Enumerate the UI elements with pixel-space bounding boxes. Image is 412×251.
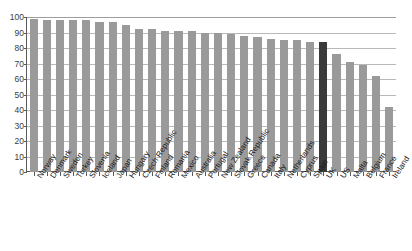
y-axis-tick-label: 0: [0, 168, 24, 177]
y-axis-tick-label: 70: [0, 59, 24, 68]
bar: [82, 20, 90, 172]
bar-slot: [40, 17, 53, 172]
x-label-slot: Czech Republic: [132, 174, 145, 251]
bar: [109, 22, 117, 172]
bar-slot: [106, 17, 119, 172]
x-label-slot: Cyprus: [290, 174, 303, 251]
x-axis-labels: NorwayDenmarkSwedenTurkeySloveniaIceland…: [27, 174, 396, 251]
bar-slot: [277, 17, 290, 172]
bar: [95, 22, 103, 172]
y-axis-tick-label: 20: [0, 137, 24, 146]
bar: [43, 20, 51, 172]
y-axis-tick-label: 100: [0, 13, 24, 22]
x-label-slot: Italy: [264, 174, 277, 251]
x-label-slot: New Zealand: [211, 174, 224, 251]
x-label-slot: Slovak Republic: [225, 174, 238, 251]
x-label-slot: France: [369, 174, 382, 251]
y-axis-tick-label: 60: [0, 75, 24, 84]
bar-slot: [383, 17, 396, 172]
x-label-slot: Hungary: [119, 174, 132, 251]
bar: [122, 25, 130, 172]
bar-slot: [356, 17, 369, 172]
bar-slot: [330, 17, 343, 172]
x-label-slot: Mexico: [172, 174, 185, 251]
bar: [280, 40, 288, 172]
bar-slot: [343, 17, 356, 172]
bar: [56, 20, 64, 172]
y-axis-tick-label: 90: [0, 28, 24, 37]
y-axis: 1009080706050403020100: [0, 17, 24, 172]
y-axis-tick-mark: [24, 172, 27, 173]
x-label-slot: Australia: [185, 174, 198, 251]
x-label-slot: Malta: [343, 174, 356, 251]
x-label-slot: Japan: [106, 174, 119, 251]
bar: [30, 19, 38, 172]
x-label-slot: Norway: [27, 174, 40, 251]
x-label-slot: Denmark: [40, 174, 53, 251]
x-label-slot: Belgium: [356, 174, 369, 251]
bar: [319, 42, 327, 172]
x-label-slot: Sweden: [53, 174, 66, 251]
x-label-slot: Portugal: [198, 174, 211, 251]
bar: [69, 20, 77, 172]
x-label-slot: Slovenia: [80, 174, 93, 251]
bar-slot: [80, 17, 93, 172]
x-label-slot: Canada: [251, 174, 264, 251]
x-label-slot: Iceland: [93, 174, 106, 251]
x-label-slot: Netherlands: [277, 174, 290, 251]
y-axis-tick-label: 80: [0, 44, 24, 53]
x-label-slot: Romania: [159, 174, 172, 251]
bar-slot: [369, 17, 382, 172]
bar-slot: [119, 17, 132, 172]
x-label-slot: Greece: [238, 174, 251, 251]
bar-slot: [317, 17, 330, 172]
x-label-slot: Finland: [146, 174, 159, 251]
x-label-slot: UK: [317, 174, 330, 251]
x-label-slot: Spain: [304, 174, 317, 251]
y-axis-tick-label: 10: [0, 152, 24, 161]
bar-slot: [185, 17, 198, 172]
bar-slot: [27, 17, 40, 172]
x-label-slot: Turkey: [67, 174, 80, 251]
bar: [332, 54, 340, 172]
bar: [359, 65, 367, 172]
x-label-slot: Ireland: [383, 174, 396, 251]
x-label-slot: US: [330, 174, 343, 251]
y-axis-tick-label: 40: [0, 106, 24, 115]
y-axis-tick-label: 50: [0, 90, 24, 99]
bar: [346, 62, 354, 172]
bar-slot: [264, 17, 277, 172]
y-axis-tick-label: 30: [0, 121, 24, 130]
